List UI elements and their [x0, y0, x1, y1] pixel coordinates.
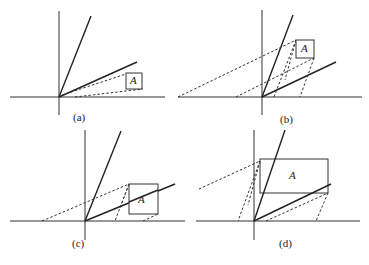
caption-d: (d): [279, 237, 292, 249]
projection-line: [75, 89, 143, 97]
diagram-canvas: [0, 0, 369, 265]
caption-a: (a): [73, 111, 85, 123]
caption-c: (c): [72, 237, 84, 249]
steep-vector: [85, 131, 121, 221]
projection-line: [178, 40, 296, 97]
box-label-c: A: [138, 193, 145, 205]
box-label-d: A: [289, 169, 296, 181]
projection-line: [143, 214, 158, 221]
panel-d: [196, 130, 360, 240]
box-label-a: A: [130, 74, 137, 86]
panel-b: [178, 10, 362, 115]
projection-line: [316, 193, 328, 221]
projection-line: [285, 40, 296, 80]
panel-c: [10, 130, 185, 240]
panel-a: [10, 11, 165, 115]
box-label-b: A: [301, 42, 308, 54]
projection-line: [266, 193, 328, 221]
projection-line: [199, 161, 260, 189]
caption-b: (b): [280, 113, 293, 125]
